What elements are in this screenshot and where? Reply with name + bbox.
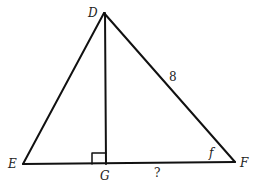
unknown-length-label: ? <box>154 166 160 180</box>
vertex-label-e: E <box>7 157 17 171</box>
angle-label-f: f <box>208 146 216 160</box>
vertex-label-f: F <box>239 156 249 170</box>
vertex-label-g: G <box>100 169 110 183</box>
vertex-label-d: D <box>87 6 98 20</box>
side-length-label: 8 <box>169 70 177 84</box>
altitude-dg <box>105 13 106 164</box>
segment-ef <box>23 162 235 164</box>
triangle-diagram: D E F G 8 f ? <box>0 0 256 185</box>
segment-df <box>104 13 235 162</box>
segment-de <box>23 13 104 164</box>
